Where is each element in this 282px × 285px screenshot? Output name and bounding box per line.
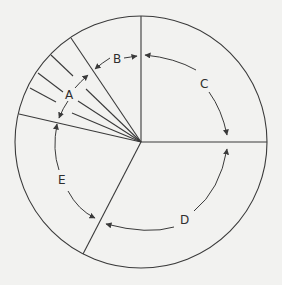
a-subdivider-3-outer	[30, 88, 56, 102]
arrow-b-left	[95, 58, 110, 69]
a-subdivider-2-outer	[38, 73, 63, 92]
divider-a-b	[71, 38, 141, 142]
label-d: D	[180, 213, 189, 227]
a-subdivider-1-inner	[86, 89, 141, 142]
arrow-c-up	[145, 55, 196, 70]
arrow-d-up	[194, 149, 227, 211]
arrow-a-up	[75, 75, 88, 88]
label-b: B	[113, 52, 121, 66]
label-e: E	[58, 173, 66, 187]
a-subdivider-2-inner	[78, 101, 141, 142]
arrow-a-down	[59, 101, 68, 118]
circle-diagram: A B C D E	[0, 0, 282, 285]
label-a: A	[65, 88, 74, 102]
label-c: C	[200, 77, 208, 91]
a-subdivider-1-outer	[51, 55, 73, 76]
arrow-e-down	[68, 191, 95, 218]
arrow-d-left	[106, 224, 174, 230]
divider-e-a	[19, 114, 141, 142]
arrow-e-up	[55, 124, 59, 170]
divider-d-e	[83, 142, 141, 254]
arrow-b-right	[124, 56, 137, 58]
arrow-c-down	[209, 92, 227, 135]
diagram-svg: A B C D E	[0, 0, 282, 285]
